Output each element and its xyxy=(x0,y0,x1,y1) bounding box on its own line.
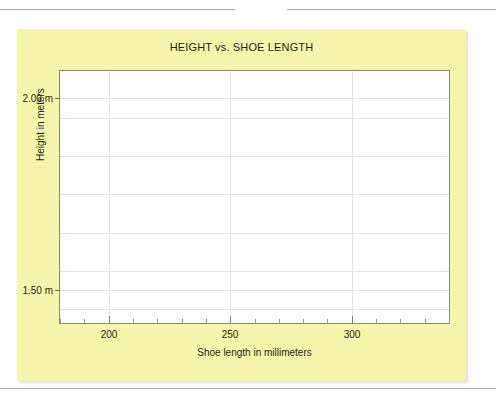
horizontal-gridline xyxy=(60,118,449,119)
chart-title: HEIGHT vs. SHOE LENGTH xyxy=(17,41,466,53)
y-axis-tick-label: 2.00 m xyxy=(22,93,53,104)
x-axis-minor-tick xyxy=(157,319,158,323)
x-axis-minor-tick xyxy=(133,319,134,323)
y-axis-major-tick xyxy=(55,98,60,99)
horizontal-gridline xyxy=(60,233,449,234)
x-axis-minor-tick xyxy=(303,319,304,323)
top-right-divider xyxy=(287,9,496,10)
vertical-gridline xyxy=(109,71,110,323)
chart-figure-panel: HEIGHT vs. SHOE LENGTH Height in meters … xyxy=(17,29,466,381)
vertical-gridline xyxy=(230,71,231,323)
x-axis-minor-tick xyxy=(60,319,61,323)
x-axis-minor-tick xyxy=(376,319,377,323)
x-axis-minor-tick xyxy=(84,319,85,323)
vertical-gridline xyxy=(352,71,353,323)
x-axis-title: Shoe length in millimeters xyxy=(59,347,450,358)
x-axis-major-tick xyxy=(230,316,231,323)
horizontal-gridline xyxy=(60,98,449,99)
horizontal-gridline xyxy=(60,194,449,195)
x-axis-minor-tick xyxy=(279,319,280,323)
horizontal-gridline xyxy=(60,156,449,157)
x-axis-tick-label: 200 xyxy=(101,329,118,340)
x-axis-minor-tick xyxy=(182,319,183,323)
x-axis-tick-label: 300 xyxy=(344,329,361,340)
x-axis-minor-tick xyxy=(206,319,207,323)
horizontal-gridline xyxy=(60,290,449,291)
horizontal-gridline xyxy=(60,309,449,310)
top-left-divider xyxy=(0,9,235,10)
plot-area: 2002503001.50 m2.00 m xyxy=(59,70,450,324)
x-axis-major-tick xyxy=(352,316,353,323)
y-axis-major-tick xyxy=(55,290,60,291)
x-axis-minor-tick xyxy=(327,319,328,323)
x-axis-minor-tick xyxy=(449,319,450,323)
x-axis-minor-tick xyxy=(400,319,401,323)
x-axis-minor-tick xyxy=(425,319,426,323)
bottom-divider xyxy=(0,388,496,389)
horizontal-gridline xyxy=(60,271,449,272)
x-axis-major-tick xyxy=(109,316,110,323)
y-axis-tick-label: 1.50 m xyxy=(22,285,53,296)
x-axis-tick-label: 250 xyxy=(222,329,239,340)
x-axis-minor-tick xyxy=(255,319,256,323)
